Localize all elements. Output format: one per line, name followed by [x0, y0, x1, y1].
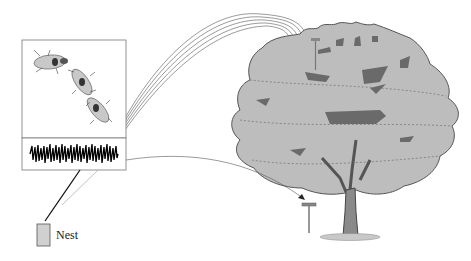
nest-label: Nest: [56, 228, 78, 243]
waveform-panel: [22, 138, 126, 170]
tree-canopy: [232, 22, 459, 194]
ground-speaker-post: [302, 203, 316, 233]
tree-trunk: [320, 188, 380, 241]
arrowhead-speaker: [298, 194, 305, 200]
diagram-canvas: [0, 0, 471, 261]
nest-icon: [37, 224, 50, 246]
insect-panel: [22, 40, 126, 138]
